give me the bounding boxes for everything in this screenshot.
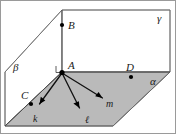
point-D-label: D <box>125 61 134 73</box>
ray-m-label: m <box>106 98 113 109</box>
plane-beta-label: β <box>12 61 19 73</box>
geometry-figure: A B C D γ β α k ℓ m <box>0 0 176 134</box>
plane-alpha-label: α <box>150 75 156 87</box>
point-C-label: C <box>21 89 29 101</box>
ray-l-label: ℓ <box>85 114 89 125</box>
point-B-label: B <box>68 19 75 31</box>
plane-gamma-surface <box>62 10 170 72</box>
point-D-dot <box>129 75 133 79</box>
point-A-dot <box>59 70 64 75</box>
point-C-dot <box>29 102 33 106</box>
point-A-label: A <box>67 59 75 71</box>
point-B-dot <box>60 23 64 27</box>
plane-gamma-label: γ <box>157 12 162 24</box>
figure-canvas: A B C D γ β α k ℓ m <box>0 0 176 134</box>
ray-k-label: k <box>33 113 38 124</box>
